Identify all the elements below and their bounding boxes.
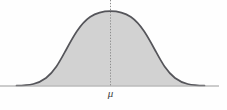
bell-curve-plot — [0, 0, 227, 110]
normal-distribution-figure: μ — [0, 0, 227, 110]
curve-fill-area — [17, 11, 205, 85]
